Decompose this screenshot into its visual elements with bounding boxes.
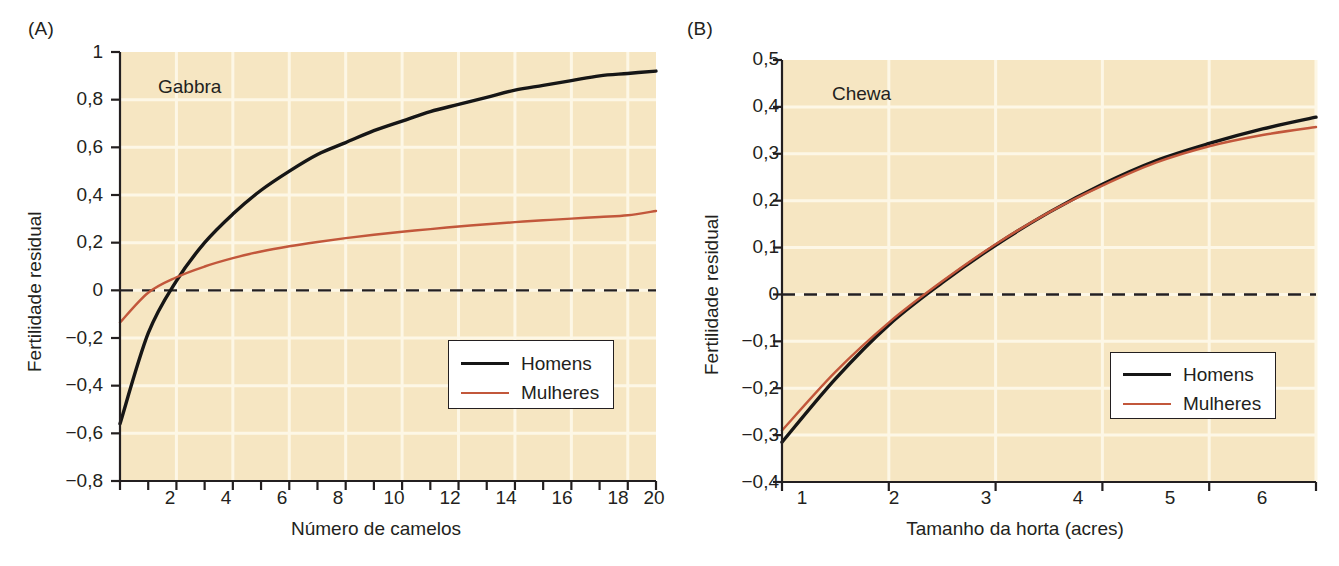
- panel-a-xtick-8: 8: [318, 487, 358, 509]
- panel-b-legend: Homens Mulheres: [1110, 352, 1276, 419]
- panel-b-xtick-6: 6: [1247, 487, 1277, 509]
- panel-a-xtick-20: 20: [634, 487, 674, 509]
- panel-b-ytick-0.4: 0,4: [717, 95, 779, 117]
- panel-a-xtick-4: 4: [206, 487, 246, 509]
- panel-a-ytick-0.4: 0,4: [40, 184, 103, 206]
- panel-b-legend-row-women: Mulheres: [1123, 394, 1261, 413]
- figure-two-panel-chart: (A) 1 0,8 0,6 0,4 0,2 0 −0,2 −0,4 −0,6 −…: [0, 0, 1339, 566]
- panel-a-ytick-0.2: 0,2: [40, 231, 103, 253]
- panel-a-ytick-1: 1: [40, 41, 103, 63]
- panel-a-group-label: Gabbra: [158, 76, 221, 98]
- panel-a-ytick-neg0.4: −0,4: [33, 374, 103, 396]
- panel-a-legend-label-men: Homens: [521, 354, 592, 373]
- panel-a-xtick-2: 2: [150, 487, 190, 509]
- panel-b-legend-label-women: Mulheres: [1183, 394, 1261, 413]
- panel-a-legend: Homens Mulheres: [448, 340, 614, 409]
- panel-b-legend-row-men: Homens: [1123, 365, 1254, 384]
- panel-a-ytick-0: 0: [40, 279, 103, 301]
- panel-b-xtick-2: 2: [879, 487, 909, 509]
- panel-b-xaxis-title: Tamanho da horta (acres): [815, 518, 1215, 540]
- panel-b-ytick-0.5: 0,5: [717, 48, 779, 70]
- panel-b-ytick-0.1: 0,1: [717, 236, 779, 258]
- legend-line-swatch-men-icon: [461, 362, 509, 365]
- panel-b-xtick-1: 1: [787, 487, 817, 509]
- legend-line-swatch-women-icon: [461, 392, 509, 394]
- legend-line-swatch-women-icon: [1123, 403, 1171, 405]
- panel-b-ytick-neg0.4: −0,4: [710, 471, 779, 493]
- panel-b-ytick-neg0.3: −0,3: [710, 424, 779, 446]
- panel-a-ytick-0.6: 0,6: [40, 136, 103, 158]
- panel-a-yaxis-title: Fertilidade residual: [24, 211, 46, 372]
- panel-a-xtick-18: 18: [598, 487, 638, 509]
- panel-b-ytick-0: 0: [717, 283, 779, 305]
- panel-a-ytick-neg0.8: −0,8: [33, 470, 103, 492]
- panel-a-xtick-12: 12: [430, 487, 470, 509]
- panel-b-xtick-3: 3: [971, 487, 1001, 509]
- panel-a-xtick-16: 16: [542, 487, 582, 509]
- panel-a-ytick-neg0.6: −0,6: [33, 422, 103, 444]
- panel-b-ytick-0.2: 0,2: [717, 189, 779, 211]
- panel-a-xtick-10: 10: [374, 487, 414, 509]
- panel-b-group-label: Chewa: [832, 83, 891, 105]
- panel-b-ytick-neg0.2: −0,2: [710, 377, 779, 399]
- panel-b: (B) 0,5 0,4 0,3 0,2 0,1 0 −0,1 −0,2 −0,3…: [670, 0, 1339, 566]
- panel-a-legend-label-women: Mulheres: [521, 383, 599, 402]
- panel-b-yaxis-title: Fertilidade residual: [701, 214, 723, 375]
- panel-a-xaxis-title: Número de camelos: [176, 518, 576, 540]
- panel-b-xtick-4: 4: [1063, 487, 1093, 509]
- panel-b-xtick-5: 5: [1155, 487, 1185, 509]
- panel-a-xtick-6: 6: [262, 487, 302, 509]
- panel-b-legend-label-men: Homens: [1183, 365, 1254, 384]
- panel-b-ytick-0.3: 0,3: [717, 142, 779, 164]
- panel-a-legend-row-men: Homens: [461, 354, 592, 373]
- panel-a-ytick-0.8: 0,8: [40, 88, 103, 110]
- panel-a: (A) 1 0,8 0,6 0,4 0,2 0 −0,2 −0,4 −0,6 −…: [0, 0, 670, 566]
- panel-a-legend-row-women: Mulheres: [461, 383, 599, 402]
- legend-line-swatch-men-icon: [1123, 373, 1171, 376]
- panel-a-xtick-14: 14: [486, 487, 526, 509]
